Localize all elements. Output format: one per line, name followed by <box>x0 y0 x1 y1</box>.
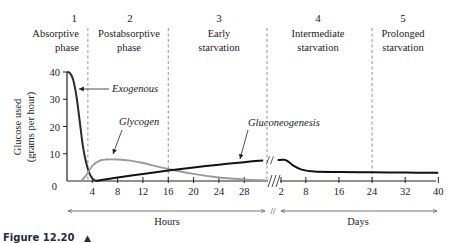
x-tick-label-hours: 20 <box>188 186 199 197</box>
x-tick-label-hours: 4 <box>90 186 96 197</box>
phase-4-label-line2: starvation <box>297 42 339 53</box>
figure-caption-triangle: ▲ <box>84 233 91 243</box>
annotation-glycogen-arrow <box>113 130 122 154</box>
figure-caption-label: Figure 12.20 <box>3 232 74 243</box>
series-line-gluconeogenesis-days <box>278 160 439 173</box>
phase-3-number: 3 <box>216 12 222 24</box>
annotation-exogenous: Exogenous <box>111 83 158 94</box>
x-tick-label-hours: 12 <box>138 186 149 197</box>
phase-2-number: 2 <box>127 12 133 24</box>
phase-2-label-line1: Postabsorptive <box>98 28 160 39</box>
x-tick-label-hours: 8 <box>115 186 120 197</box>
days-label: Days <box>347 216 369 227</box>
phase-1-number: 1 <box>72 12 78 24</box>
x-tick-label-days: 2 <box>278 186 283 197</box>
x-tick-label-hours: 16 <box>163 186 174 197</box>
x-tick-label-days: 16 <box>334 186 345 197</box>
axis-break-slash-2 <box>272 175 276 187</box>
annotation-glycogen: Glycogen <box>119 116 159 127</box>
x-tick-label-days: 24 <box>367 186 378 197</box>
phase-4-label-line1: Intermediate <box>291 28 344 39</box>
phase-2-label-line2: phase <box>117 42 141 53</box>
y-axis-label-line1: Glucose used <box>12 98 23 155</box>
figure-caption: Figure 12.20 ▲ <box>3 232 91 243</box>
y-axis-label: Glucose used (grams per hour) <box>12 91 37 162</box>
phase-3-label-line2: starvation <box>198 42 240 53</box>
y-tick-label: 20 <box>50 122 61 133</box>
hours-label: Hours <box>154 216 180 227</box>
series-line-exogenous <box>67 72 96 181</box>
phase-5-number: 5 <box>400 12 406 24</box>
y-tick-label: 40 <box>50 67 61 78</box>
x-tick-label-days: 8 <box>303 186 308 197</box>
axis-break-slash-1 <box>268 175 272 187</box>
x-tick-label-days: 32 <box>400 186 411 197</box>
phase-5-label-line1: Prolonged <box>381 28 425 39</box>
phase-3-label-line1: Early <box>208 28 231 39</box>
phase-5-label-line2: starvation <box>382 42 424 53</box>
y-tick-label: 10 <box>50 149 61 160</box>
y-tick-label: 30 <box>50 94 61 105</box>
range-arrows: // Hours Days <box>68 206 437 227</box>
series-break-mark <box>266 156 273 164</box>
phase-4-number: 4 <box>315 12 321 24</box>
y-axis-label-line2: (grams per hour) <box>25 91 37 162</box>
phase-1-label-line2: phase <box>55 42 79 53</box>
range-break-mark: // <box>270 206 276 216</box>
annotations: Exogenous Glycogen Gluconeogenesis <box>79 83 320 159</box>
y-tick-label-zero: 0 <box>52 181 57 192</box>
annotation-gluconeogenesis: Gluconeogenesis <box>248 117 320 128</box>
chart: 1 Absorptive phase 2 Postabsorptive phas… <box>0 0 454 243</box>
x-tick-label-hours: 24 <box>214 186 225 197</box>
phase-headers: 1 Absorptive phase 2 Postabsorptive phas… <box>32 12 425 53</box>
x-ticks: 4812162024282816243240 <box>90 177 444 197</box>
x-tick-label-days: 40 <box>433 186 444 197</box>
y-ticks: 010203040 <box>50 67 68 192</box>
annotation-gluconeogenesis-arrow <box>240 130 248 159</box>
phase-1-label-line1: Absorptive <box>32 28 79 39</box>
x-tick-label-hours: 28 <box>239 186 250 197</box>
